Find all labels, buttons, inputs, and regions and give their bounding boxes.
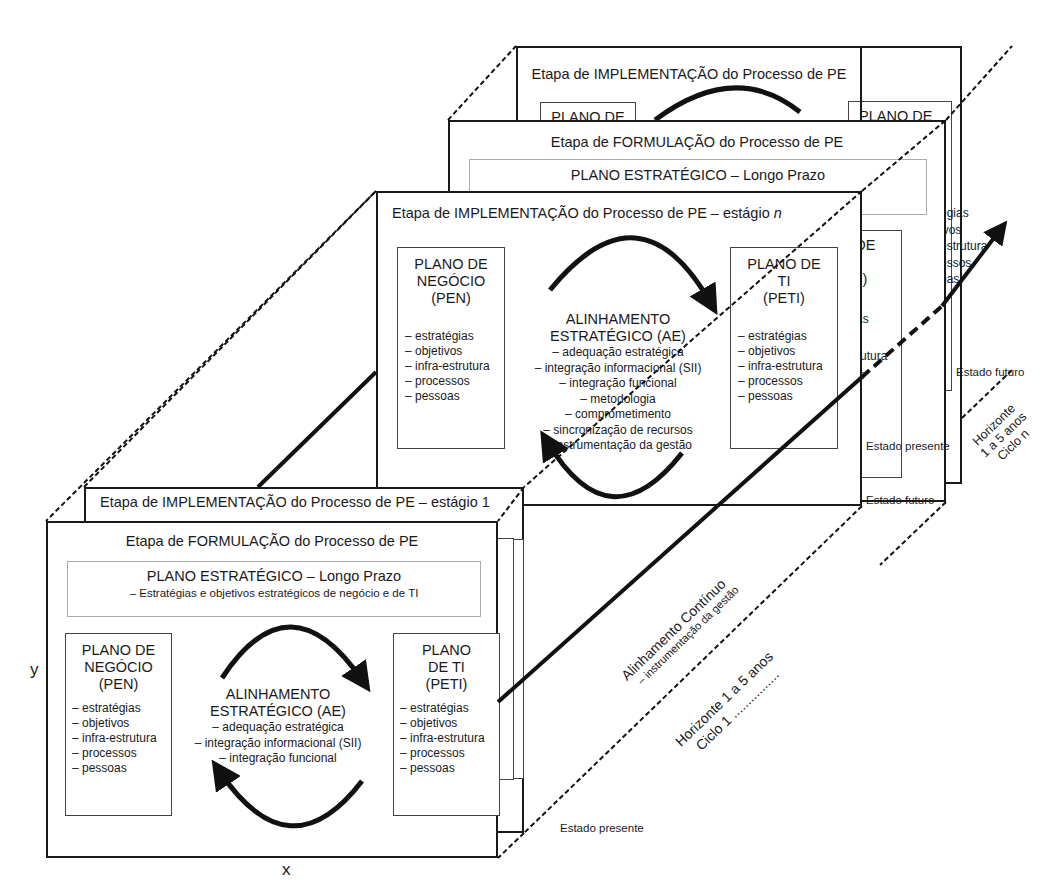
- stage-n-forward-arc-icon: [550, 238, 710, 302]
- stage-1-forward-arc-icon: [222, 627, 362, 680]
- stage-n-return-arc-icon: [548, 443, 682, 497]
- perspective-dashed-lines: [46, 46, 1012, 858]
- continuous-alignment-arrow-icon: [258, 230, 1000, 702]
- connectors-layer: [0, 0, 1059, 888]
- stage-1-return-arc-icon: [220, 772, 362, 826]
